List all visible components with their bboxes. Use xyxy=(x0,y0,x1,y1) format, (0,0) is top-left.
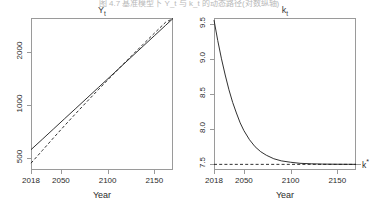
y-tick-mark xyxy=(210,94,214,95)
panel-title-Y-subscript: t xyxy=(104,10,106,17)
x-tick-mark xyxy=(61,170,62,174)
y-tick-label: 9.0 xyxy=(198,42,207,72)
x-axis-title-k: Year xyxy=(214,190,356,200)
x-tick-label: 2150 xyxy=(134,176,174,185)
y-tick-mark xyxy=(210,24,214,25)
panel-title-k: kt xyxy=(214,5,356,17)
x-tick-label: 2050 xyxy=(41,176,81,185)
panel-title-k-subscript: t xyxy=(286,10,288,17)
series-line xyxy=(31,19,173,150)
x-tick-mark xyxy=(244,170,245,174)
y-tick-label: 1000 xyxy=(15,89,24,119)
x-tick-mark xyxy=(337,170,338,174)
y-tick-label: 500 xyxy=(15,142,24,172)
plot-lines-Y xyxy=(31,18,173,170)
y-tick-label: 8.0 xyxy=(198,113,207,143)
chart-panel-Y: Yt Year 201820502100215050010002000 xyxy=(0,0,190,214)
x-tick-mark xyxy=(214,170,215,174)
chart-panel-k: kt k* Year 20182050210021507.58.08.59.09… xyxy=(188,0,378,214)
y-tick-mark xyxy=(27,52,31,53)
y-tick-label: 7.5 xyxy=(198,148,207,178)
y-tick-label: 2000 xyxy=(15,35,24,65)
x-tick-label: 2150 xyxy=(317,176,357,185)
series-line xyxy=(214,20,356,164)
y-tick-mark xyxy=(210,164,214,165)
y-tick-mark xyxy=(27,158,31,159)
x-tick-mark xyxy=(108,170,109,174)
x-tick-label: 2050 xyxy=(224,176,264,185)
y-tick-mark xyxy=(210,59,214,60)
y-tick-label: 8.5 xyxy=(198,78,207,108)
k-star-annotation: k* xyxy=(362,158,369,170)
x-tick-mark xyxy=(154,170,155,174)
plot-lines-k xyxy=(214,18,356,170)
panel-title-Y: Yt xyxy=(31,5,173,17)
x-tick-mark xyxy=(31,170,32,174)
k-star-superscript: * xyxy=(366,158,369,165)
x-tick-label: 2100 xyxy=(88,176,128,185)
x-axis-title-Y: Year xyxy=(31,190,173,200)
y-tick-label: 9.5 xyxy=(198,7,207,37)
x-tick-label: 2100 xyxy=(271,176,311,185)
series-line xyxy=(31,19,173,164)
y-tick-mark xyxy=(27,105,31,106)
k-star-tick-mark xyxy=(356,164,361,165)
y-tick-mark xyxy=(210,129,214,130)
x-tick-mark xyxy=(291,170,292,174)
figure-root: 图 4.7 基准模型下 Y_t 与 k_t 的动态路径(对数纵轴) Yt Yea… xyxy=(0,0,378,214)
